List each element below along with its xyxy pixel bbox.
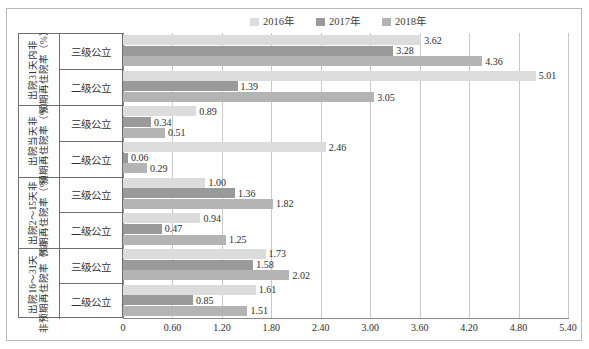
bar-g3s0-2017年 <box>123 260 253 270</box>
bar-g3s1-2018年 <box>123 306 247 316</box>
bar-value-label: 0.85 <box>196 296 214 306</box>
subcategory-label-0-1: 二级公立 <box>60 69 122 105</box>
bar-value-label: 2.46 <box>329 143 347 153</box>
subcategory-column: 三级公立二级公立 <box>59 249 122 319</box>
x-tick-5.40: 5.40 <box>559 322 577 334</box>
x-tick-0: 0 <box>121 322 126 334</box>
bar-value-label: 1.73 <box>269 249 287 259</box>
category-group-3: 出院16～31天非预期再住院率（%）三级公立二级公立 <box>19 248 122 319</box>
bar-value-label: 0.94 <box>203 214 221 224</box>
bar-value-label: 0.34 <box>154 118 172 128</box>
legend-swatch-2018 <box>382 18 391 26</box>
legend-label-2018: 2018年 <box>395 17 426 28</box>
bar-value-label: 1.51 <box>250 306 268 316</box>
category-group-title: 出院16～31天非预期再住院率（%） <box>19 249 59 319</box>
subcategory-column: 三级公立二级公立 <box>59 34 122 105</box>
x-tick-1.80: 1.80 <box>263 322 281 334</box>
bar-value-label: 1.82 <box>276 199 294 209</box>
bar-value-label: 2.02 <box>292 271 310 281</box>
subcategory-label-2-0: 三级公立 <box>60 178 122 213</box>
bar-g0s1-2016年 <box>123 71 536 81</box>
legend-item-2017: 2017年 <box>316 17 360 28</box>
bar-g0s0-2017年 <box>123 46 393 56</box>
bar-value-label: 1.39 <box>241 82 259 92</box>
x-tick-3.00: 3.00 <box>361 322 379 334</box>
chart-container: 2016年 2017年 2018年 出院31天内非预期再住院率（%）三级公立二级… <box>0 0 589 349</box>
category-group-title: 出院当天非预期再住院率（%） <box>19 106 59 176</box>
subcategory-label-3-0: 三级公立 <box>60 249 122 284</box>
x-tick-2.40: 2.40 <box>312 322 330 334</box>
group-title-line1: 出院31天内非 <box>28 40 38 100</box>
bar-g0s0-2018年 <box>123 56 482 66</box>
bar-value-label: 1.25 <box>229 235 247 245</box>
bar-value-label: 3.05 <box>377 93 395 103</box>
bar-g1s1-2016年 <box>123 142 326 152</box>
bar-g2s0-2016年 <box>123 178 205 188</box>
bar-g1s1-2018年 <box>123 163 147 173</box>
bar-value-label: 0.89 <box>199 107 217 117</box>
bar-value-label: 1.36 <box>238 189 256 199</box>
bar-g2s1-2018年 <box>123 235 226 245</box>
bar-value-label: 0.06 <box>131 153 149 163</box>
bar-g0s0-2016年 <box>123 35 421 45</box>
subcategory-label-1-1: 二级公立 <box>60 141 122 177</box>
bar-value-label: 5.01 <box>539 71 557 81</box>
bar-g3s0-2018年 <box>123 270 289 280</box>
legend-swatch-2017 <box>316 18 325 26</box>
bar-value-label: 3.62 <box>424 36 442 46</box>
x-axis-tick-labels: 00.601.201.802.403.003.604.204.805.40 <box>123 322 569 336</box>
legend-label-2016: 2016年 <box>263 17 294 28</box>
chart-legend: 2016年 2017年 2018年 <box>250 15 426 29</box>
group-title-line1: 出院当天非 <box>28 116 38 166</box>
bar-value-label: 0.29 <box>150 164 168 174</box>
bar-g3s0-2016年 <box>123 249 266 259</box>
category-axis-table: 出院31天内非预期再住院率（%）三级公立二级公立出院当天非预期再住院率（%）三级… <box>18 33 123 318</box>
bar-g3s1-2017年 <box>123 295 193 305</box>
group-title-line2: 非预期再住院率（%） <box>39 235 50 333</box>
legend-item-2018: 2018年 <box>382 17 426 28</box>
subcategory-column: 三级公立二级公立 <box>59 178 122 248</box>
x-tick-0.60: 0.60 <box>164 322 182 334</box>
bar-value-label: 3.28 <box>396 46 414 56</box>
x-tick-3.60: 3.60 <box>411 322 429 334</box>
x-tick-4.80: 4.80 <box>510 322 528 334</box>
bar-g1s1-2017年 <box>123 153 128 163</box>
bar-g0s1-2017年 <box>123 81 238 91</box>
x-tick-4.20: 4.20 <box>460 322 478 334</box>
subcategory-label-2-1: 二级公立 <box>60 212 122 248</box>
legend-label-2017: 2017年 <box>329 17 360 28</box>
bar-value-label: 4.36 <box>485 57 503 67</box>
bar-g1s0-2017年 <box>123 117 151 127</box>
category-group-0: 出院31天内非预期再住院率（%）三级公立二级公立 <box>19 34 122 105</box>
subcategory-label-3-1: 二级公立 <box>60 283 122 319</box>
gridline-5.40 <box>568 33 569 318</box>
plot-area: 3.623.284.365.011.393.050.890.340.512.46… <box>123 33 568 318</box>
bar-g0s1-2018年 <box>123 92 374 102</box>
x-tick-1.20: 1.20 <box>213 322 231 334</box>
bar-value-label: 0.51 <box>168 128 186 138</box>
bar-g1s0-2018年 <box>123 128 165 138</box>
bar-value-label: 1.58 <box>256 260 274 270</box>
bar-g2s1-2016年 <box>123 213 200 223</box>
bar-g1s0-2016年 <box>123 106 196 116</box>
bar-g2s1-2017年 <box>123 224 162 234</box>
bar-g2s0-2017年 <box>123 188 235 198</box>
subcategory-label-0-0: 三级公立 <box>60 34 122 69</box>
category-group-1: 出院当天非预期再住院率（%）三级公立二级公立 <box>19 105 122 176</box>
subcategory-column: 三级公立二级公立 <box>59 106 122 176</box>
legend-item-2016: 2016年 <box>250 17 294 28</box>
x-axis-line <box>123 318 569 319</box>
subcategory-label-1-0: 三级公立 <box>60 106 122 141</box>
category-group-title: 出院31天内非预期再住院率（%） <box>19 34 59 105</box>
bar-g2s0-2018年 <box>123 199 273 209</box>
bar-value-label: 1.00 <box>208 178 226 188</box>
bar-value-label: 0.47 <box>165 224 183 234</box>
bar-g3s1-2016年 <box>123 285 256 295</box>
group-title-line1: 出院16～31天 <box>28 254 38 313</box>
legend-swatch-2016 <box>250 18 259 26</box>
bar-value-label: 1.61 <box>259 285 277 295</box>
